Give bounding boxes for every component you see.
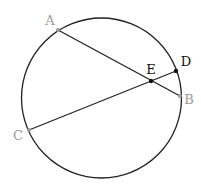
point-c — [27, 128, 31, 132]
circle — [22, 18, 182, 178]
chord-cd — [29, 71, 176, 130]
label-b: B — [184, 92, 194, 107]
chord-ab — [58, 30, 180, 96]
point-d — [174, 69, 178, 73]
point-a — [56, 28, 60, 32]
label-a: A — [44, 13, 55, 28]
geometry-diagram: A B C D E — [0, 0, 201, 193]
label-c: C — [13, 128, 23, 143]
label-d: D — [181, 54, 191, 69]
point-b — [178, 94, 182, 98]
label-e: E — [146, 62, 156, 77]
point-e — [149, 79, 153, 83]
